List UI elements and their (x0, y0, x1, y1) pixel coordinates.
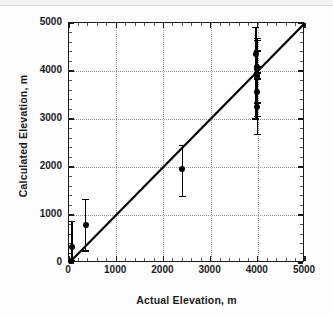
x-axis-label: Actual Elevation, m (68, 294, 305, 306)
y-tick-label: 5000 (16, 16, 62, 27)
page-top-strip (0, 0, 333, 6)
error-bar-cap (254, 134, 261, 135)
one-to-one-line (69, 23, 305, 263)
x-tick-label: 5000 (274, 264, 333, 275)
y-tick-label: 1000 (16, 208, 62, 219)
error-bar-cap (254, 66, 261, 67)
y-tick-label: 0 (16, 256, 62, 267)
error-bar-cap (179, 145, 186, 146)
y-tick-label: 3000 (16, 112, 62, 123)
error-bar-cap (254, 78, 261, 79)
error-bar-cap (252, 27, 259, 28)
y-tick-label: 4000 (16, 64, 62, 75)
data-point (254, 104, 260, 110)
y-tick-label: 2000 (16, 160, 62, 171)
plot-area (68, 22, 304, 262)
figure: Calculated Elevation, m Actual Elevation… (0, 0, 333, 318)
error-bar-cap (68, 260, 75, 261)
error-bar-cap (254, 51, 261, 52)
error-bar-cap (68, 221, 75, 222)
identity-line-segment (69, 23, 305, 263)
error-bar-cap (254, 40, 261, 41)
data-point (69, 244, 75, 250)
error-bar (71, 221, 72, 260)
error-bar-cap (179, 196, 186, 197)
error-bar-cap (82, 250, 89, 251)
data-point (83, 222, 89, 228)
error-bar-cap (82, 199, 89, 200)
